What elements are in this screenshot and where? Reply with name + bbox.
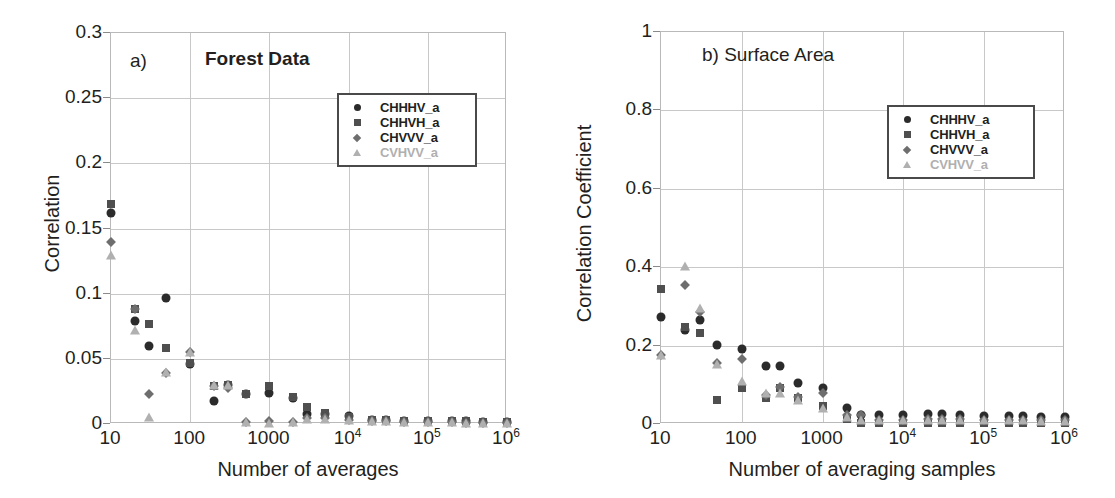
legend-marker-diamond	[903, 145, 911, 153]
data-point-triangle	[241, 418, 251, 427]
data-point-square	[657, 285, 665, 293]
data-point-triangle	[223, 380, 233, 389]
data-point-square	[713, 396, 721, 404]
data-point-triangle	[161, 367, 171, 376]
y-tick-mark	[103, 32, 110, 33]
gridline-vertical	[349, 33, 350, 422]
chart-panel-b: 10100100010410510600.20.40.60.81 b) Surf…	[557, 0, 1115, 498]
x-tick-label: 1000	[800, 427, 842, 449]
data-point-triangle	[856, 416, 866, 425]
legend-marker-triangle	[903, 161, 911, 168]
y-tick-mark	[103, 423, 110, 424]
data-point-square	[265, 382, 273, 390]
legend-item: CHHHV_a	[896, 112, 1024, 127]
y-tick-label: 0	[32, 412, 102, 434]
data-point-triangle	[1018, 416, 1028, 425]
legend-a: CHHHV_aCHHVH_aCHVVV_aCVHVV_a	[337, 93, 477, 167]
gridline-horizontal	[111, 229, 505, 230]
legend-swatch	[896, 147, 918, 153]
data-point-triangle	[818, 403, 828, 412]
data-point-circle	[130, 317, 139, 326]
legend-marker-triangle	[353, 149, 361, 156]
data-point-triangle	[320, 414, 330, 423]
legend-item: CHVVV_a	[896, 142, 1024, 157]
legend-label: CHHVH_a	[930, 127, 989, 142]
figure-container: 10100100010410510600.050.10.150.20.250.3…	[0, 0, 1115, 498]
legend-marker-circle	[904, 116, 911, 123]
legend-item: CVHVV_a	[346, 145, 466, 160]
data-point-diamond	[106, 237, 116, 247]
x-tick-label: 10	[649, 427, 670, 449]
data-point-circle	[162, 293, 171, 302]
data-point-diamond	[144, 389, 154, 399]
x-tick-label: 105	[413, 427, 441, 449]
data-point-triangle	[399, 418, 409, 427]
data-point-triangle	[937, 416, 947, 425]
gridline-vertical	[269, 33, 270, 422]
x-tick-label: 106	[1050, 427, 1078, 449]
gridline-horizontal	[661, 267, 1063, 268]
data-point-triangle	[680, 262, 690, 271]
legend-marker-circle	[354, 104, 361, 111]
data-point-triangle	[478, 418, 488, 427]
data-point-triangle	[898, 416, 908, 425]
data-point-square	[303, 403, 311, 411]
plot-area-a	[110, 32, 506, 423]
data-point-triangle	[302, 414, 312, 423]
y-axis-label-a: Correlation	[41, 59, 64, 389]
data-point-square	[681, 323, 689, 331]
data-point-triangle	[761, 388, 771, 397]
x-tick-label: 10	[99, 427, 120, 449]
legend-label: CHVVV_a	[380, 130, 438, 145]
data-point-triangle	[775, 389, 785, 398]
x-tick-label: 106	[492, 427, 520, 449]
x-tick-label: 104	[888, 427, 916, 449]
data-point-triangle	[130, 326, 140, 335]
y-tick-mark	[653, 188, 660, 189]
data-point-circle	[107, 208, 116, 217]
data-point-square	[289, 393, 297, 401]
data-point-diamond	[737, 354, 747, 364]
data-point-square	[186, 359, 194, 367]
data-point-circle	[144, 341, 153, 350]
data-point-triangle	[367, 417, 377, 426]
legend-swatch	[346, 119, 368, 126]
data-point-triangle	[695, 304, 705, 313]
x-axis-label-b: Number of averaging samples	[660, 458, 1064, 481]
panel-a-title: Forest Data	[205, 48, 310, 70]
legend-swatch	[896, 161, 918, 168]
data-point-circle	[657, 313, 666, 322]
y-tick-mark	[103, 97, 110, 98]
legend-b: CHHHV_aCHHVH_aCHVVV_aCVHVV_a	[887, 105, 1035, 179]
y-axis-label-b: Correlation Coefficient	[573, 59, 596, 389]
data-point-triangle	[288, 418, 298, 427]
legend-label: CHVVV_a	[930, 142, 988, 157]
data-point-square	[242, 390, 250, 398]
y-tick-label: 0.3	[32, 21, 102, 43]
data-point-triangle	[793, 395, 803, 404]
legend-item: CHHHV_a	[346, 100, 466, 115]
y-tick-mark	[653, 423, 660, 424]
panel-b-tag: b) Surface Area	[702, 44, 834, 66]
data-point-circle	[737, 344, 746, 353]
data-point-triangle	[381, 417, 391, 426]
gridline-horizontal	[661, 189, 1063, 190]
x-tick-label: 100	[725, 427, 757, 449]
legend-swatch	[346, 104, 368, 111]
legend-item: CHHVH_a	[896, 127, 1024, 142]
data-point-circle	[713, 340, 722, 349]
data-point-triangle	[1060, 416, 1070, 425]
data-point-square	[107, 200, 115, 208]
x-axis-label-a: Number of averages	[110, 458, 506, 481]
gridline-vertical	[428, 33, 429, 422]
data-point-triangle	[106, 250, 116, 259]
data-point-triangle	[502, 418, 512, 427]
legend-label: CVHVV_a	[380, 145, 438, 160]
legend-item: CVHVV_a	[896, 157, 1024, 172]
panel-a-tag: a)	[130, 50, 147, 72]
legend-swatch	[896, 131, 918, 138]
gridline-horizontal	[111, 359, 505, 360]
data-point-triangle	[447, 418, 457, 427]
x-tick-label: 100	[173, 427, 205, 449]
data-point-square	[162, 344, 170, 352]
